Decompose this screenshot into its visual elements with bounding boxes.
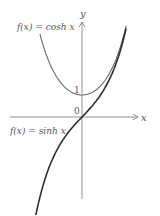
y-tick-one: 1 [74,85,80,95]
x-axis-label: x [141,112,147,123]
sinh-curve [36,29,126,216]
cosh-legend-label: f(x) = cosh x [16,22,75,32]
origin-label: 0 [74,106,80,116]
hyperbolic-functions-chart: y x 1 0 f(x) = cosh x f(x) = sinh x [0,0,160,215]
sinh-legend-label: f(x) = sinh x [9,126,66,136]
y-axis-label: y [79,8,86,19]
cosh-curve [40,26,126,95]
